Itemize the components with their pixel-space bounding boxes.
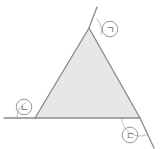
label-digeut-text: ㄷ — [126, 130, 135, 141]
geometry-figure: ㄱ ㄴ ㄷ — [0, 0, 160, 149]
arc-giyeok — [96, 19, 101, 35]
label-nieun: ㄴ — [16, 99, 32, 115]
right-side-extension-line — [140, 118, 154, 148]
triangle-diagram-svg: ㄱ ㄴ ㄷ — [0, 0, 160, 149]
label-giyeok: ㄱ — [102, 21, 118, 37]
left-side-extension-line — [89, 7, 97, 28]
label-giyeok-text: ㄱ — [106, 24, 115, 35]
triangle-shape — [35, 28, 140, 118]
label-nieun-text: ㄴ — [20, 102, 29, 113]
